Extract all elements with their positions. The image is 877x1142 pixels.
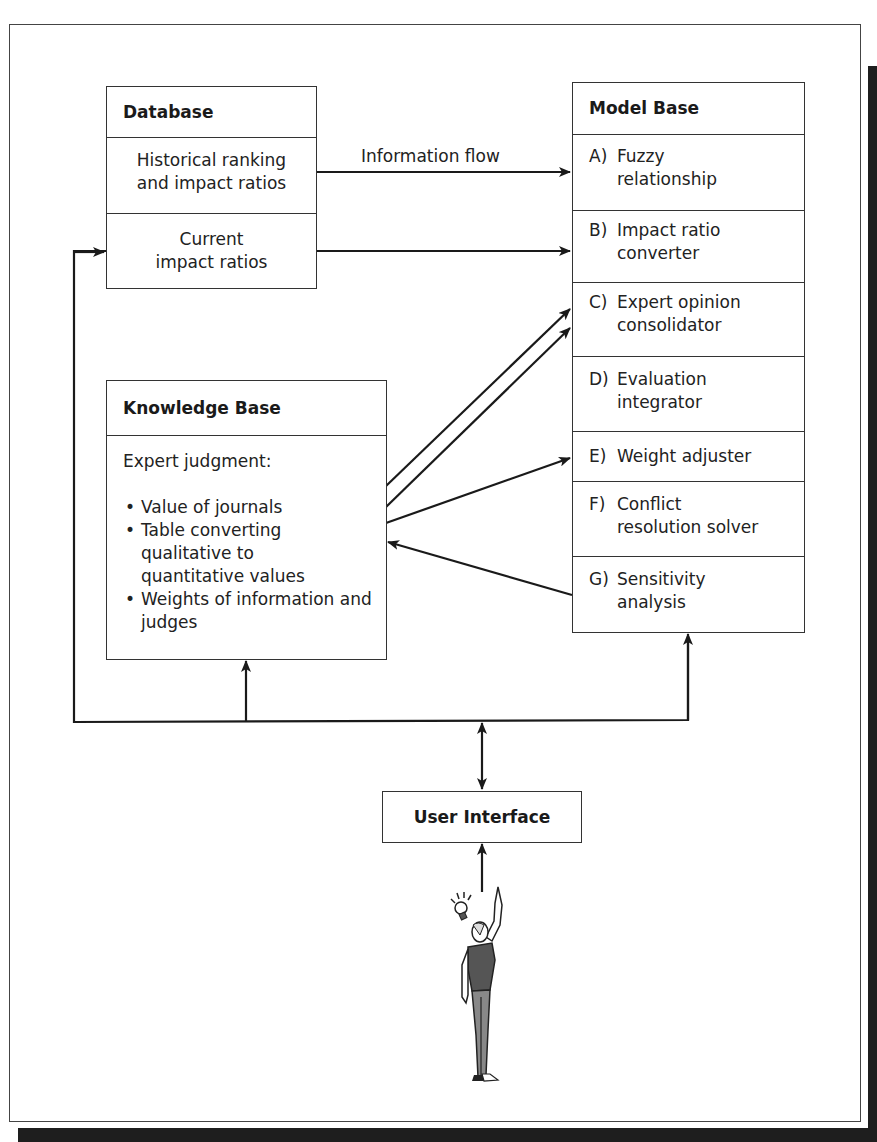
knowledge-bullets: Value of journals Table converting quali… — [123, 496, 378, 634]
database-row-current: Current impact ratios — [107, 213, 316, 289]
model-base-title: Model Base — [573, 83, 804, 134]
user-interface-title: User Interface — [383, 792, 581, 842]
item-key: C) — [589, 291, 617, 314]
model-item-b: B)Impact ratio converter — [573, 210, 804, 282]
model-item-d: D)Evaluation integrator — [573, 356, 804, 431]
model-item-f: F)Conflict resolution solver — [573, 481, 804, 556]
item-key: G) — [589, 568, 617, 591]
item-key: A) — [589, 145, 617, 168]
database-row-line: Current — [107, 228, 316, 251]
item-key: B) — [589, 219, 617, 242]
model-item-g: G)Sensitivity analysis — [573, 556, 804, 633]
knowledge-base-box: Knowledge Base Expert judgment: Value of… — [106, 380, 387, 660]
item-label: integrator — [589, 391, 804, 414]
person-with-lightbulb-icon — [440, 885, 520, 1090]
knowledge-base-title: Knowledge Base — [107, 381, 386, 435]
database-box: Database Historical ranking and impact r… — [106, 86, 317, 289]
database-row-line: and impact ratios — [107, 172, 316, 195]
item-label: resolution solver — [589, 516, 804, 539]
item-label: Impact ratio — [617, 219, 720, 242]
user-interface-box: User Interface — [382, 791, 582, 843]
item-label: Conflict — [617, 493, 682, 516]
model-item-a: A)Fuzzy relationship — [573, 134, 804, 210]
database-row-line: Historical ranking — [107, 149, 316, 172]
bullet-item: Table converting qualitative to quantita… — [123, 519, 321, 588]
item-label: consolidator — [589, 314, 804, 337]
item-key: F) — [589, 493, 617, 516]
item-label: Weight adjuster — [617, 445, 751, 468]
item-key: E) — [589, 445, 617, 468]
item-label: Evaluation — [617, 368, 707, 391]
bullet-item: Weights of information and judges — [123, 588, 381, 634]
model-base-box: Model Base A)Fuzzy relationship B)Impact… — [572, 82, 805, 633]
item-label: analysis — [589, 591, 804, 614]
item-key: D) — [589, 368, 617, 391]
item-label: Fuzzy — [617, 145, 665, 168]
expert-judgment-label: Expert judgment: — [123, 450, 378, 473]
bullet-item: Value of journals — [123, 496, 378, 519]
database-row-line: impact ratios — [107, 251, 316, 274]
database-row-historical: Historical ranking and impact ratios — [107, 137, 316, 213]
model-item-c: C)Expert opinion consolidator — [573, 282, 804, 356]
item-label: Sensitivity — [617, 568, 706, 591]
information-flow-label: Information flow — [361, 146, 500, 166]
item-label: converter — [589, 242, 804, 265]
item-label: Expert opinion — [617, 291, 741, 314]
knowledge-base-content: Expert judgment: Value of journals Table… — [107, 435, 386, 659]
database-title: Database — [107, 87, 316, 137]
item-label: relationship — [589, 168, 804, 191]
model-item-e: E)Weight adjuster — [573, 431, 804, 481]
